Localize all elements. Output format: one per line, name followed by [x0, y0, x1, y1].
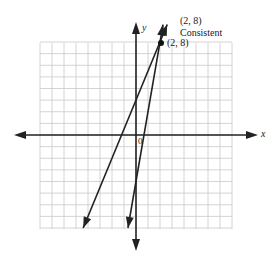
- x-axis-left-arrow-icon: [14, 131, 26, 139]
- y-axis-down-arrow-icon: [132, 239, 140, 251]
- line-2: [128, 25, 163, 228]
- coordinate-plane: [0, 0, 276, 265]
- intersection-point: [158, 40, 164, 46]
- line-2-start-arrow-icon: [126, 216, 134, 228]
- intersection-point-label: (2, 8): [167, 37, 189, 48]
- y-axis-up-arrow-icon: [132, 22, 140, 34]
- origin-label: 0: [138, 136, 143, 146]
- line-2-end-arrow-icon: [157, 25, 165, 37]
- classification-label: Consistent: [180, 27, 222, 38]
- x-axis-label: x: [261, 128, 265, 139]
- line-1-start-arrow-icon: [83, 216, 91, 228]
- y-axis-label: y: [142, 22, 146, 33]
- solution-label: (2, 8): [180, 15, 202, 26]
- line-1: [83, 25, 167, 228]
- x-axis-right-arrow-icon: [246, 131, 258, 139]
- plotted-lines: [83, 25, 167, 228]
